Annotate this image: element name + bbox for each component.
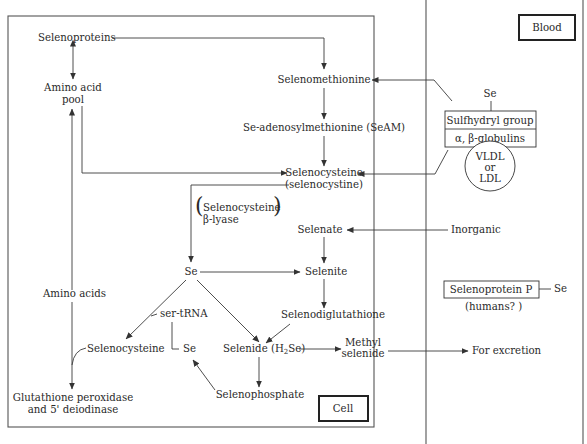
node-selenodiglutathione: Selenodiglutathione [281,309,385,320]
node-glutathione-line2: and 5' deiodinase [28,404,119,415]
node-amino-acids: Amino acids [42,288,106,299]
edge-sertrna-se-bracket [172,322,179,349]
edge-vldl-selenocysteine [358,150,448,174]
selenium-metabolism-diagram: Blood Cell Selenoproteins Amino acid poo… [0,0,587,444]
blood-selenoprotein-p: Selenoprotein P [450,284,533,295]
node-se-center: Se [184,266,197,277]
svg-text:): ) [273,193,282,218]
node-methyl-selenide-line1: Methyl [345,337,381,348]
node-se-small: Se [183,343,196,354]
edge-selenodiglutathione-selenide [266,324,290,343]
blood-sulfhydryl: Sulfhydryl group [446,115,534,126]
edge-pool-selenocysteine [82,106,287,173]
node-amino-acid-pool-line1: Amino acid [43,82,102,93]
blood-se-top: Se [483,88,496,99]
blood-label: Blood [532,22,562,33]
node-inorganic: Inorganic [451,224,501,235]
cell-label: Cell [333,403,353,414]
node-selenocysteine-top-line2: (selenocystine) [285,179,363,190]
node-selenide: Selenide (H2Se) [223,343,305,356]
edge-selenoproteins-selenomethionine [112,38,324,69]
node-selenocysteine-low: Selenocysteine [87,343,165,354]
node-methyl-selenide-line2: selenide [342,348,385,359]
node-amino-acid-pool-line2: pool [62,94,84,105]
node-selenomethionine: Selenomethionine [277,74,370,85]
blood-se-right: Se [554,283,567,294]
node-seam: Se-adenosylmethionine (SeAM) [243,122,405,133]
enzyme-label: ( Selenocysteine β-lyase ) [195,193,282,225]
blood-vldl-line2: or [484,162,495,173]
node-glutathione-line1: Glutathione peroxidase [13,392,133,403]
blood-humans: (humans? ) [465,301,522,312]
node-selenate: Selenate [297,224,342,235]
enzyme-name-line1: Selenocysteine [203,202,281,213]
ser-trna-tick [151,314,157,316]
blood-label-box: Blood [519,15,575,40]
node-selenophosphate: Selenophosphate [216,389,305,400]
edge-blood-selenomethionine [372,80,452,101]
edge-selenocysteine-merge [72,348,86,365]
enzyme-name-line2: β-lyase [203,214,239,225]
node-ser-trna: ser-tRNA [160,308,208,319]
cell-label-box: Cell [319,396,368,421]
blood-vldl-line3: LDL [479,173,501,184]
node-for-excretion: For excretion [472,345,542,356]
node-selenite: Selenite [305,266,347,277]
node-selenocysteine-top-line1: Selenocysteine [285,167,363,178]
edge-selenophosphate-se [193,360,215,390]
node-selenoproteins: Selenoproteins [38,32,116,43]
blood-vldl-line1: VLDL [474,151,504,162]
